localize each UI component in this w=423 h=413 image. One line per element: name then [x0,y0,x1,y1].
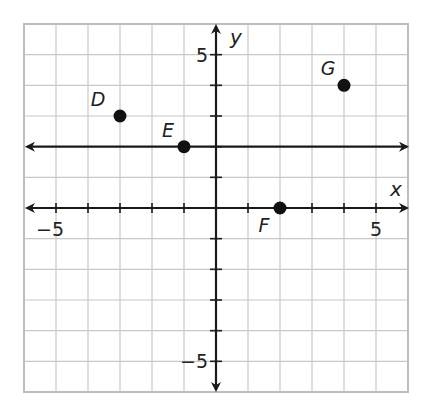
point-label: F [259,214,271,236]
point-e: E [162,119,191,154]
point-marker [274,202,287,215]
x-tick-label: −5 [36,218,64,240]
point-g: G [321,57,351,92]
point-marker [178,140,191,153]
axes [27,26,407,390]
point-label: G [321,57,336,79]
y-axis-label: y [229,25,243,49]
x-tick-label: 5 [370,218,382,240]
point-label: D [91,88,106,110]
y-tick-label: 5 [196,44,208,66]
point-marker [338,79,351,92]
point-d: D [91,88,127,123]
point-label: E [162,119,174,141]
x-axis-label: x [389,177,402,201]
y-tick-label: −5 [180,350,208,372]
point-f: F [259,202,287,237]
coordinate-plane: −555−5 xy DEFG [0,0,423,413]
point-marker [114,110,127,123]
